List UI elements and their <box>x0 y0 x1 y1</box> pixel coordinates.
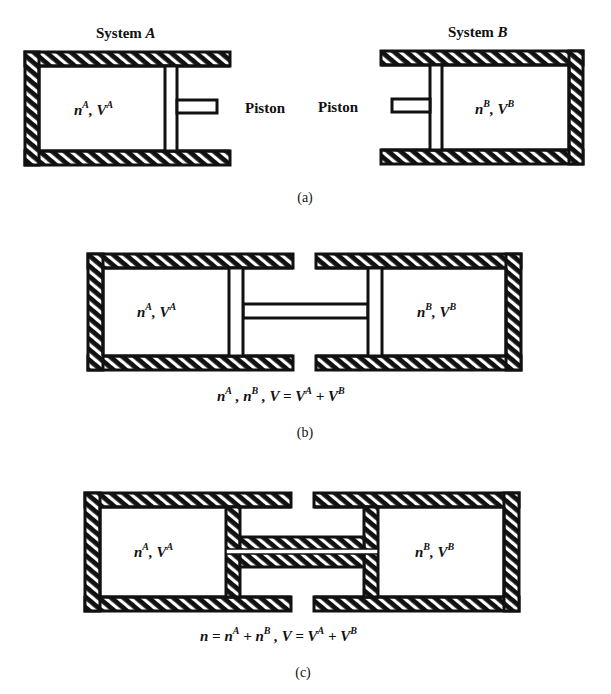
equation-b: nA , nB , V = VA + VB <box>217 385 345 404</box>
caption-c: (c) <box>295 665 311 681</box>
rigid-pistons-c <box>226 507 378 597</box>
panel-c: nA, VA nB, VB n = nA + nB , V = VA + VB … <box>85 493 519 681</box>
connected-pistons-b <box>229 268 382 356</box>
left-state-b: nA, VA <box>137 301 177 320</box>
system-a-state: nA, VA <box>74 99 114 118</box>
system-b-title: System B <box>448 24 508 40</box>
piston-b <box>392 65 442 150</box>
system-a-title: System A <box>96 25 156 41</box>
piston-label-a: Piston <box>245 100 286 116</box>
piston-label-b: Piston <box>318 99 359 115</box>
panel-a: System A System B nA, VA Piston <box>25 24 583 206</box>
system-b-state: nB, VB <box>475 98 515 117</box>
panel-b: nA, VA nB, VB nA , nB , V = VA + VB (b) <box>88 254 521 441</box>
caption-a: (a) <box>297 190 313 206</box>
thermodynamic-piston-diagram: System A System B nA, VA Piston <box>0 0 611 694</box>
equation-c: n = nA + nB , V = VA + VB <box>200 625 357 644</box>
right-state-c: nB, VB <box>415 541 455 560</box>
left-state-c: nA, VA <box>134 541 174 560</box>
right-state-b: nB, VB <box>417 301 457 320</box>
piston-a <box>165 66 217 151</box>
caption-b: (b) <box>297 425 314 441</box>
